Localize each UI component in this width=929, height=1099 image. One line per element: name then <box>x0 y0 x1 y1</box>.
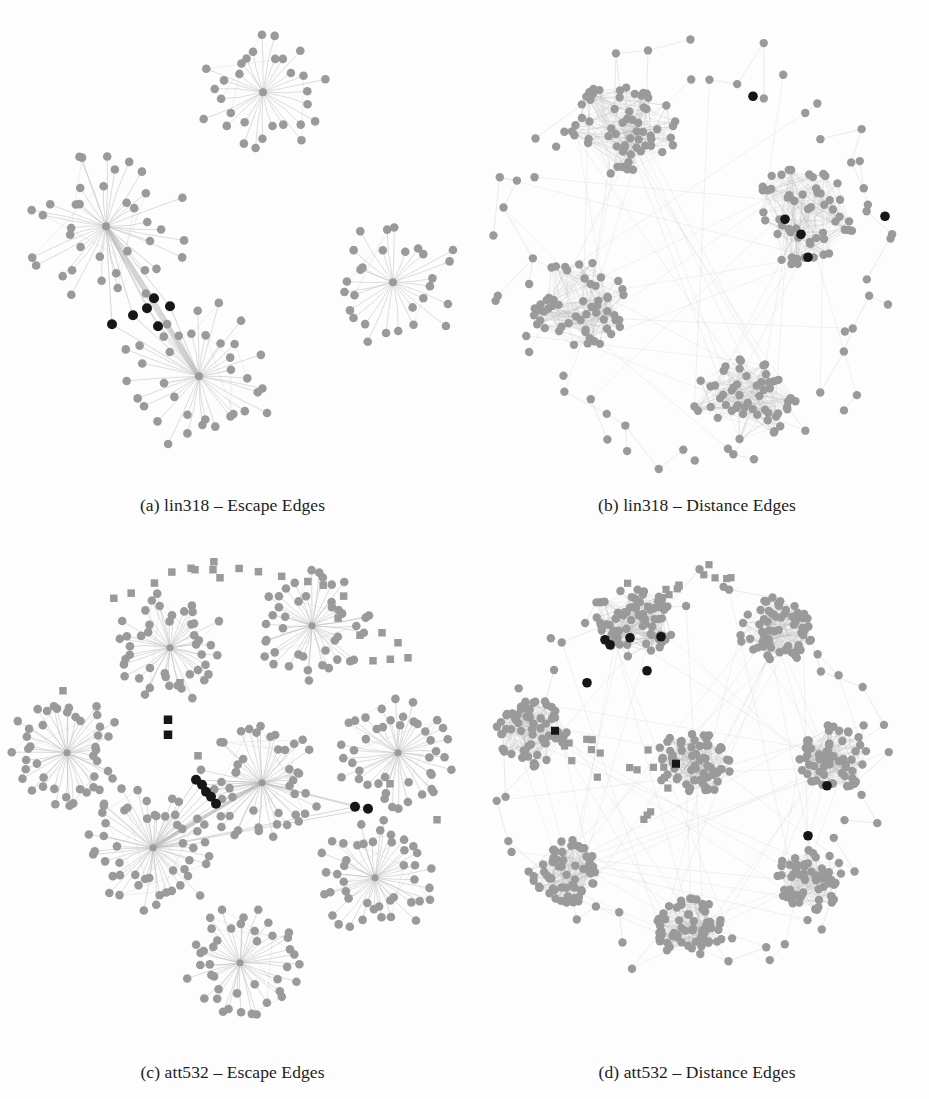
graph-node-cluster <box>833 179 841 187</box>
graph-edge <box>498 258 533 295</box>
graph-node-leaf <box>192 940 201 949</box>
graph-node-peripheral <box>581 619 589 627</box>
graph-node-peripheral <box>525 280 533 288</box>
graph-node-leaf <box>141 606 150 615</box>
graph-node-peripheral <box>618 938 626 946</box>
graph-node-square <box>723 575 730 582</box>
graph-node-leaf <box>188 694 197 703</box>
graph-node-black <box>642 666 652 676</box>
graph-node-leaf <box>413 720 422 729</box>
graph-node-leaf <box>76 243 85 252</box>
graph-node-cluster <box>844 727 852 735</box>
graph-node-leaf <box>387 913 396 922</box>
graph-edge <box>168 412 183 444</box>
graph-edge <box>371 266 393 283</box>
graph-node-cluster <box>622 624 630 632</box>
graph-node-cluster <box>547 263 555 271</box>
graph-node-leaf <box>218 905 227 914</box>
graph-node-cluster <box>615 627 623 635</box>
graph-node-leaf <box>122 198 131 207</box>
graph-node-square <box>597 749 604 756</box>
graph-node-leaf <box>23 732 32 741</box>
graph-node-leaf <box>361 713 370 722</box>
graph-node-cluster <box>835 859 843 867</box>
graph-node-cluster <box>570 341 578 349</box>
graph-node-cluster <box>741 403 749 411</box>
graph-node-cluster <box>719 391 727 399</box>
graph-node-peripheral <box>888 230 896 238</box>
graph-edge <box>183 376 199 412</box>
graph-edge <box>199 376 223 396</box>
graph-node-peripheral <box>552 142 560 150</box>
graph-edge <box>102 790 137 813</box>
graph-node-black <box>822 781 832 791</box>
graph-node-peripheral <box>643 90 651 98</box>
graph-node-cluster <box>581 328 589 336</box>
graph-node-peripheral <box>489 231 497 239</box>
graph-node-leaf <box>237 727 246 736</box>
graph-node-cluster <box>810 762 818 770</box>
graph-node-leaf <box>363 337 372 346</box>
graph-node-leaf <box>196 961 205 970</box>
graph-node-leaf <box>239 913 248 922</box>
graph-node-square <box>653 604 660 611</box>
graph-node-cluster <box>540 738 548 746</box>
graph-node-leaf <box>407 898 416 907</box>
graph-node-cluster <box>663 946 671 954</box>
graph-node-leaf <box>94 731 103 740</box>
graph-node-cluster <box>787 873 795 881</box>
graph-node-leaf <box>318 661 327 670</box>
graph-node-leaf <box>58 272 67 281</box>
graph-node-black <box>625 633 635 643</box>
graph-node-cluster <box>746 635 754 643</box>
graph-node-leaf <box>396 721 405 730</box>
graph-node-leaf <box>290 740 299 749</box>
graph-node-peripheral <box>830 834 838 842</box>
graph-edge <box>589 865 783 895</box>
graph-node-peripheral <box>728 934 736 942</box>
graph-node-peripheral <box>578 100 586 108</box>
graph-node-leaf <box>290 790 299 799</box>
graph-node-square <box>386 780 394 788</box>
graph-edge <box>267 936 273 1003</box>
graph-node-peripheral <box>859 721 867 729</box>
graph-node-square <box>194 752 202 760</box>
graph-node-leaf <box>205 852 214 861</box>
graph-edge <box>845 820 878 823</box>
graph-node-hub <box>389 278 397 286</box>
graph-node-leaf <box>53 704 62 713</box>
graph-node-leaf <box>379 723 388 732</box>
graph-edge <box>724 209 808 371</box>
graph-node-cluster <box>588 879 596 887</box>
graph-node-leaf <box>439 724 448 733</box>
graph-node-leaf <box>426 736 435 745</box>
graph-node-leaf <box>445 257 454 266</box>
graph-node-cluster <box>701 907 709 915</box>
graph-node-cluster <box>812 234 820 242</box>
graph-node-leaf <box>192 640 201 649</box>
graph-node-cluster <box>729 383 737 391</box>
graph-node-cluster <box>613 142 621 150</box>
graph-node-leaf <box>178 193 187 202</box>
graph-node-leaf <box>39 211 48 220</box>
graph-node-leaf <box>101 857 110 866</box>
graph-node-cluster <box>577 886 585 894</box>
graph-node-leaf <box>219 1007 228 1016</box>
graph-node-leaf <box>269 832 278 841</box>
graph-edge <box>155 648 170 673</box>
graph-node-leaf <box>62 793 71 802</box>
graph-node-leaf <box>75 200 84 209</box>
graph-node-leaf <box>159 332 168 341</box>
graph-node-cluster <box>593 301 601 309</box>
graph-node-leaf <box>258 30 267 39</box>
graph-node-leaf <box>301 809 310 818</box>
graph-node-leaf <box>285 765 294 774</box>
graph-node-cluster <box>667 631 675 639</box>
graph-node-peripheral <box>885 748 893 756</box>
graph-node-cluster <box>791 854 799 862</box>
graph-edge <box>504 750 506 797</box>
graph-node-cluster <box>774 409 782 417</box>
graph-node-cluster <box>607 124 615 132</box>
graph-node-cluster <box>555 327 563 335</box>
graph-node-cluster <box>767 172 775 180</box>
